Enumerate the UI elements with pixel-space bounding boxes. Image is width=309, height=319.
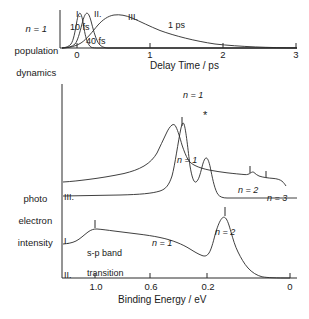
spectra-trace-ii [63,125,286,186]
top-lifetime-10fs-label: 10 fs [70,22,90,32]
spectra-ii-n2-label: n = 2 [238,185,258,195]
top-panel-xaxis-title: Delay Time / ps [150,60,219,71]
spectra-xtick-label-0p6: 0.6 [140,281,162,292]
top-xtick-label-1: 1 [142,49,158,60]
top-lifetime-40fs-label: 40 fs [86,36,106,46]
spectra-iii-n1-label: n = 1 [183,90,203,100]
spectra-xaxis-title: Binding Energy / eV [118,294,206,305]
figure-container: n = 1 population dynamics 10 fs 40 fs 1 … [0,0,309,319]
spectra-i-spband-line1: s-p band [87,248,122,258]
top-xtick-label-3: 3 [288,49,304,60]
spectra-iii-star-label: * [203,110,207,120]
spectra-ii-n3-label: n = 3 [267,193,287,203]
spectra-ii-n1-label: n = 1 [177,155,197,165]
top-xtick-label-0: 0 [69,49,85,60]
spectra-i-spband-line2: transition [87,268,124,278]
top-curve-iii-tag: III. [128,12,138,22]
top-curve-i-tag: I. [76,9,81,19]
spectra-i-n2-label: n = 2 [215,227,235,237]
spectra-xtick-label-1p0: 1.0 [85,281,107,292]
spectra-trace-iii-tag: III. [64,192,74,202]
top-lifetime-1ps-label: 1 ps [168,20,185,30]
top-xtick-label-2: 2 [215,49,231,60]
top-curve-ii-tag: II. [94,9,102,19]
spectra-trace-ii-tag: II. [64,270,72,280]
spectra-xtick-label-0p2: 0.2 [197,281,219,292]
spectra-xtick-label-0: 0 [283,281,297,292]
spectra-i-n1-label: n = 1 [152,238,172,248]
spectra-trace-i-tag: I. [64,236,69,246]
